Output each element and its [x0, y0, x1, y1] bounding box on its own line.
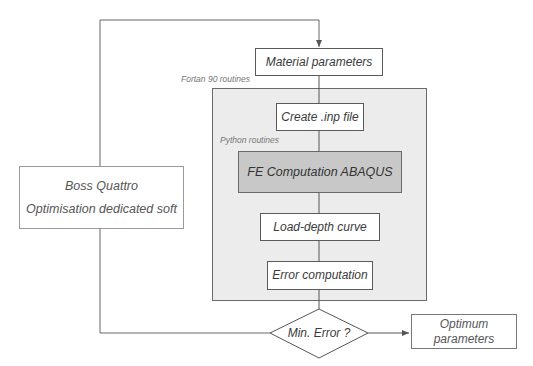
min-error-text: Min. Error ? — [270, 326, 368, 340]
load-depth-text: Load-depth curve — [273, 220, 366, 234]
optimum-line2: parameters — [434, 332, 495, 346]
material-parameters-text: Material parameters — [266, 55, 373, 69]
error-computation-text: Error computation — [272, 268, 367, 282]
material-parameters-node: Material parameters — [255, 48, 383, 76]
boss-quattro-line2: Optimisation dedicated soft — [26, 202, 177, 217]
error-computation-node: Error computation — [267, 261, 373, 290]
optimum-parameters-node: Optimum parameters — [411, 314, 517, 349]
fe-computation-text: FE Computation ABAQUS — [247, 165, 392, 180]
optimum-line1: Optimum — [440, 317, 489, 331]
create-inp-node: Create .inp file — [276, 103, 364, 131]
fortran-label: Fortan 90 routines — [181, 74, 250, 84]
boss-quattro-node: Boss Quattro Optimisation dedicated soft — [19, 166, 184, 229]
boss-quattro-line1: Boss Quattro — [65, 179, 138, 194]
fe-computation-node: FE Computation ABAQUS — [238, 151, 402, 193]
load-depth-node: Load-depth curve — [260, 213, 380, 241]
create-inp-text: Create .inp file — [281, 110, 358, 124]
flowchart-canvas: Fortan 90 routines Python routines Mater… — [0, 0, 533, 366]
python-label: Python routines — [220, 135, 279, 145]
